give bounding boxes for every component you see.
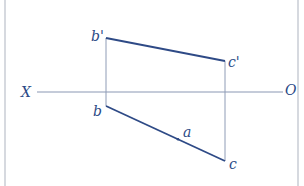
label-b-prime: b' [91, 28, 104, 44]
label-a: a [183, 124, 191, 140]
label-b: b [93, 103, 102, 119]
label-c: c [229, 156, 237, 172]
edge-b-c [106, 106, 225, 161]
projection-diagram: X O b' c' b c a [0, 0, 304, 186]
point-a-marker [177, 138, 180, 141]
label-c-prime: c' [228, 54, 240, 70]
axis-label-o: O [285, 82, 297, 98]
axis-label-x: X [20, 84, 32, 100]
edge-b-prime-c-prime [106, 38, 225, 61]
